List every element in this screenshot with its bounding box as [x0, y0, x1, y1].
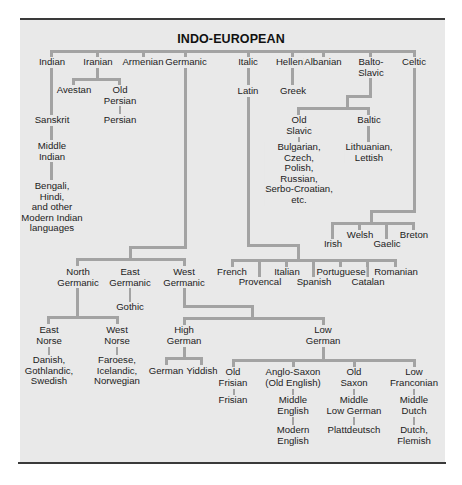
node-italic: Italic [237, 57, 259, 68]
bottom-border-rule [18, 462, 446, 464]
node-low-franconian: LowFranconian [389, 367, 439, 388]
diagram-title: INDO-EUROPEAN [0, 32, 462, 46]
node-gaelic: Gaelic [372, 239, 401, 250]
node-german: German [148, 366, 185, 377]
node-modern-english: ModernEnglish [276, 425, 311, 446]
node-west-norse: WestNorse [103, 325, 131, 346]
node-east-norse: EastNorse [35, 325, 63, 346]
node-east-germanic: EastGermanic [108, 267, 152, 288]
node-catalan: Catalan [350, 277, 385, 288]
node-old-persian: OldPersian [103, 85, 138, 106]
node-spanish: Spanish [296, 277, 333, 288]
node-romanian: Romanian [373, 267, 419, 278]
node-old-saxon: OldSaxon [339, 367, 368, 388]
node-north-germanic: NorthGermanic [56, 267, 100, 288]
node-balto-slavic: Balto-Slavic [357, 57, 385, 78]
node-baltic-languages: Lithuanian,Lettish [345, 142, 394, 163]
node-west-germanic: WestGermanic [162, 267, 206, 288]
node-avestan: Avestan [56, 85, 93, 96]
node-frisian: Frisian [218, 395, 249, 406]
node-dutch-flemish: Dutch,Flemish [396, 425, 432, 446]
node-anglo-saxon: Anglo-Saxon(Old English) [264, 367, 321, 388]
node-welsh: Welsh [346, 230, 374, 241]
node-albanian: Albanian [303, 57, 342, 68]
node-modern-indian: Bengali,Hindi,and otherModern Indianlang… [20, 181, 83, 234]
node-greek: Greek [279, 86, 307, 97]
node-low-german: LowGerman [305, 325, 342, 346]
node-iranian: Iranian [82, 57, 113, 68]
node-east-norse-languages: Danish,Gothlandic,Swedish [24, 355, 75, 387]
node-breton: Breton [399, 230, 429, 241]
node-yiddish: Yiddish [185, 366, 218, 377]
node-gothic: Gothic [115, 302, 145, 313]
node-persian: Persian [103, 115, 138, 126]
node-old-slavic: OldSlavic [285, 115, 313, 136]
top-border-rule [20, 18, 445, 20]
node-middle-dutch: MiddleDutch [399, 395, 429, 416]
node-old-frisian: OldFrisian [218, 367, 249, 388]
node-plattdeutsch: Plattdeutsch [327, 425, 382, 436]
node-high-german: HighGerman [166, 325, 203, 346]
node-indian: Indian [38, 57, 66, 68]
node-latin: Latin [237, 86, 260, 97]
node-slavic-languages: Bulgarian,Czech,Polish,Russian,Serbo-Cro… [264, 142, 334, 206]
node-germanic: Germanic [164, 57, 208, 68]
node-west-norse-languages: Faroese,Icelandic,Norwegian [93, 355, 141, 387]
node-sanskrit: Sanskrit [34, 115, 71, 126]
node-provencal: Provencal [238, 277, 283, 288]
node-middle-english: MiddleEnglish [276, 395, 309, 416]
node-middle-low-german: MiddleLow German [326, 395, 383, 416]
node-celtic: Celtic [401, 57, 427, 68]
node-irish: Irish [323, 239, 343, 250]
node-middle-indian: MiddleIndian [37, 141, 67, 162]
node-armenian: Armenian [121, 57, 164, 68]
node-baltic: Baltic [356, 115, 381, 126]
